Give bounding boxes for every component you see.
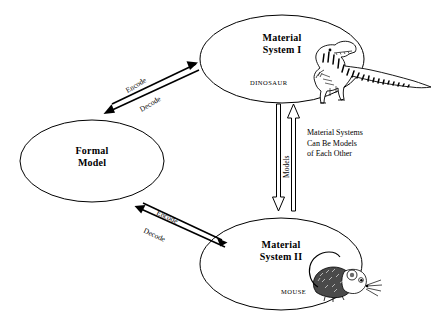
annotation-line1: Material Systems — [307, 128, 363, 139]
node-label-line2: System II — [240, 251, 322, 263]
annotation-line3: of Each Other — [307, 149, 363, 160]
node-label-material-system-1: Material System I — [242, 32, 322, 56]
annotation-line2: Can Be Models — [307, 139, 363, 150]
node-label-material-system-2: Material System II — [240, 239, 322, 263]
node-label-line1: Material — [240, 239, 322, 251]
node-label-formal-model: Formal Model — [52, 145, 132, 169]
species-label-dinosaur: DINOSAUR — [250, 79, 288, 86]
diagram-canvas: Material System I DINOSAUR Formal Model … — [0, 0, 433, 323]
node-label-line1: Formal — [52, 145, 132, 157]
node-label-line1: Material — [242, 32, 322, 44]
edge-label-models: Models — [282, 156, 291, 179]
node-label-line2: Model — [52, 157, 132, 169]
annotation-material-systems-models: Material Systems Can Be Models of Each O… — [307, 128, 363, 160]
node-label-line2: System I — [242, 44, 322, 56]
species-label-mouse: MOUSE — [281, 288, 306, 295]
